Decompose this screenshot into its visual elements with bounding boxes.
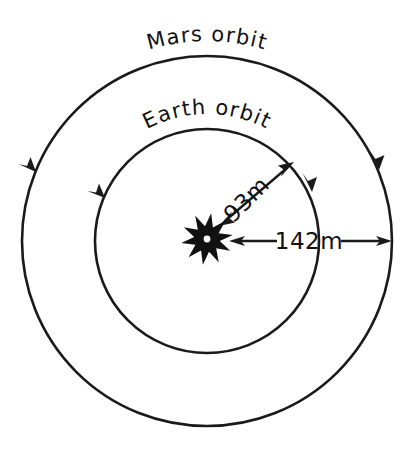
earth-orbit-direction-arrow-left xyxy=(88,184,106,199)
mars-orbit-label: Mars orbit xyxy=(144,22,270,54)
mars-distance-measurement: 142m xyxy=(229,228,392,254)
sun-symbol xyxy=(181,213,232,264)
mars-orbit-group: Mars orbit xyxy=(19,22,393,426)
earth-orbit-direction-arrow-right xyxy=(303,173,318,192)
sun-core-dot xyxy=(204,236,211,243)
orbit-diagram-canvas: Mars orbit Earth orbit 93m xyxy=(0,0,416,452)
mars-orbit-label-text: Mars orbit xyxy=(144,22,270,54)
earth-orbit-group: Earth orbit xyxy=(88,95,320,353)
mars-distance-label: 142m xyxy=(275,228,343,254)
orbit-diagram: Mars orbit Earth orbit 93m xyxy=(0,0,416,452)
earth-distance-measurement: 93m xyxy=(218,162,294,227)
mars-orbit-direction-arrow-left xyxy=(19,157,37,172)
